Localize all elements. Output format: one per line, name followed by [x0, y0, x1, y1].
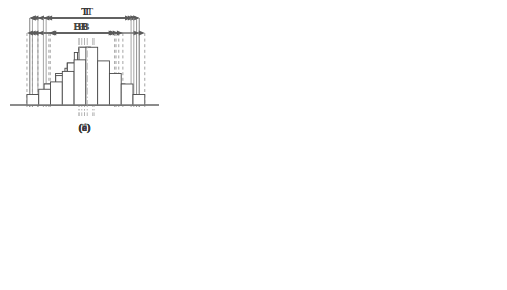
histogram-bar — [133, 95, 145, 106]
histogram-bars-f — [27, 47, 145, 105]
histogram-bar — [51, 82, 63, 105]
histogram-bar — [109, 74, 121, 106]
panel-caption-f: (f) — [79, 122, 90, 134]
histogram-bar — [27, 95, 39, 106]
histogram-bar — [98, 61, 110, 105]
histogram-panel-f: TB(f) — [0, 0, 169, 145]
figure-container: TB(a)TB(b)TB(c)TB(d)TB(e)TB(f) — [0, 0, 507, 290]
histogram-bar — [121, 84, 133, 105]
histogram-bar — [39, 89, 51, 105]
histogram-bar — [62, 71, 74, 105]
histogram-bar — [74, 60, 86, 105]
spread-label-f: B — [82, 20, 89, 32]
tolerance-label-f: T — [84, 5, 91, 17]
